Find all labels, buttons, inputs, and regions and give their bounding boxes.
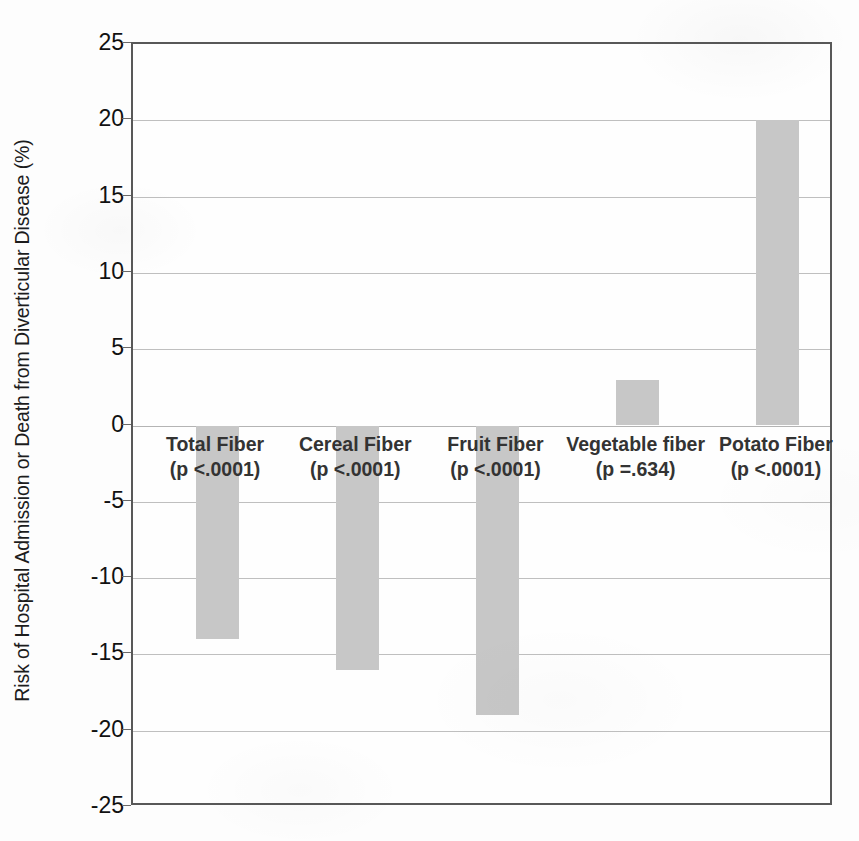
category-pvalue: (p <.0001) <box>145 457 285 483</box>
y-tick-label-25: 25 <box>44 29 124 56</box>
category-label-vegetable-fiber: Vegetable fiber(p =.634) <box>566 432 706 483</box>
category-label-fruit-fiber: Fruit Fiber(p <.0001) <box>425 432 565 483</box>
category-name: Vegetable fiber <box>566 433 705 455</box>
y-tick-label--5: -5 <box>44 486 124 513</box>
category-label-potato-fiber: Potato Fiber(p <.0001) <box>706 432 846 483</box>
category-name: Total Fiber <box>166 433 264 455</box>
bar-chart: Risk of Hospital Admission or Death from… <box>0 0 859 841</box>
y-tick-label--20: -20 <box>44 715 124 742</box>
bar-vegetable-fiber[interactable] <box>616 380 659 426</box>
y-tick-label--10: -10 <box>44 563 124 590</box>
y-tick-label-10: 10 <box>44 257 124 284</box>
category-pvalue: (p <.0001) <box>425 457 565 483</box>
category-name: Potato Fiber <box>719 433 833 455</box>
y-tick-mark-15 <box>122 195 131 196</box>
y-tick-label--25: -25 <box>44 792 124 819</box>
gridline-15 <box>133 197 830 198</box>
y-tick-mark-20 <box>122 118 131 119</box>
category-label-cereal-fiber: Cereal Fiber(p <.0001) <box>285 432 425 483</box>
category-label-total-fiber: Total Fiber(p <.0001) <box>145 432 285 483</box>
gridline--20 <box>133 731 830 732</box>
category-pvalue: (p <.0001) <box>706 457 846 483</box>
y-tick-label-20: 20 <box>44 105 124 132</box>
y-tick-mark--10 <box>122 576 131 577</box>
bar-potato-fiber[interactable] <box>756 120 799 425</box>
y-tick-mark-5 <box>122 347 131 348</box>
category-name: Cereal Fiber <box>299 433 412 455</box>
y-tick-mark--25 <box>122 805 131 806</box>
y-tick-label-0: 0 <box>44 410 124 437</box>
plot-area <box>131 42 832 805</box>
gridline-5 <box>133 349 830 350</box>
gridline-10 <box>133 273 830 274</box>
y-tick-mark--5 <box>122 500 131 501</box>
y-tick-label-5: 5 <box>44 334 124 361</box>
y-tick-mark-25 <box>122 42 131 43</box>
y-tick-label--15: -15 <box>44 639 124 666</box>
y-tick-mark-10 <box>122 271 131 272</box>
category-pvalue: (p <.0001) <box>285 457 425 483</box>
y-tick-mark--20 <box>122 729 131 730</box>
gridline-20 <box>133 120 830 121</box>
y-tick-mark-0 <box>122 424 131 425</box>
y-tick-label-15: 15 <box>44 181 124 208</box>
category-name: Fruit Fiber <box>447 433 543 455</box>
y-axis-title: Risk of Hospital Admission or Death from… <box>0 0 44 841</box>
category-pvalue: (p =.634) <box>566 457 706 483</box>
y-tick-mark--15 <box>122 652 131 653</box>
